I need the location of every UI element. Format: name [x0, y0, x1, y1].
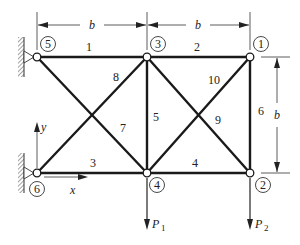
member-label-2: 2	[194, 40, 200, 54]
node-4	[143, 169, 151, 177]
node-label-3: 3	[155, 37, 161, 51]
node-label-4: 4	[154, 178, 160, 192]
member-label-5: 5	[153, 110, 159, 124]
truss-diagram: b b b y x	[0, 0, 300, 245]
load-label-p2: P	[254, 217, 263, 231]
dim-label-left: b	[89, 18, 95, 32]
node-6	[33, 169, 41, 177]
node-3	[143, 53, 151, 61]
member-label-3: 3	[90, 156, 96, 170]
node-1	[246, 53, 254, 61]
node-label-2: 2	[260, 178, 266, 192]
member-label-1: 1	[86, 40, 92, 54]
node-2	[246, 169, 254, 177]
y-axis-label: y	[40, 120, 47, 134]
member-label-9: 9	[215, 113, 221, 127]
member-label-6: 6	[258, 104, 264, 118]
member-label-7: 7	[120, 121, 126, 135]
node-label-1: 1	[258, 37, 264, 51]
dim-label-height: b	[274, 108, 280, 122]
load-subscript-p1: 1	[161, 223, 166, 233]
load-label-p1: P	[151, 217, 160, 231]
member-label-4: 4	[192, 156, 198, 170]
member-labels: 1 2 3 4 5 6 7 8 9 10	[86, 40, 264, 170]
dim-label-right: b	[195, 18, 201, 32]
node-5	[33, 53, 41, 61]
x-axis-label: x	[69, 183, 76, 197]
load-subscript-p2: 2	[264, 223, 269, 233]
member-label-10: 10	[208, 73, 220, 87]
member-label-8: 8	[113, 70, 119, 84]
dimension-right: b	[261, 57, 290, 173]
node-label-5: 5	[45, 37, 51, 51]
dimension-top: b b	[37, 12, 250, 50]
support-node-5	[18, 37, 34, 77]
node-label-6: 6	[34, 182, 40, 196]
